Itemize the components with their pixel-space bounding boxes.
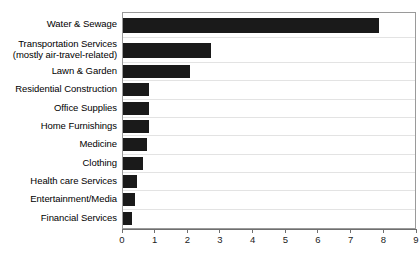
bar (123, 157, 143, 170)
x-axis-tick (383, 229, 384, 233)
bar (123, 212, 132, 225)
category-label-text: Home Furnishings (41, 121, 117, 132)
plot-area (122, 12, 416, 229)
x-axis-tick-label: 8 (381, 234, 386, 245)
bar (123, 65, 190, 78)
category-label: Financial Services (0, 209, 122, 227)
bar-row (123, 38, 415, 63)
category-label-text-secondary: (mostly air-travel-related) (13, 50, 117, 61)
category-label: Health care Services (0, 172, 122, 190)
x-axis-tick (252, 229, 253, 233)
x-axis-tick (122, 229, 123, 233)
category-label: Lawn & Garden (0, 62, 122, 80)
x-axis-line (122, 229, 416, 230)
category-label-text: Transportation Services(mostly air-trave… (13, 39, 117, 60)
x-axis-tick-label: 5 (283, 234, 288, 245)
category-label-text: Office Supplies (54, 103, 117, 114)
bar-row (123, 191, 415, 209)
bar (123, 18, 379, 33)
x-axis-tick-label: 7 (348, 234, 353, 245)
bar-row (123, 81, 415, 99)
x-axis-tick (350, 229, 351, 233)
category-label-text: Water & Sewage (47, 19, 117, 30)
bar (123, 193, 135, 206)
category-label-text: Clothing (83, 158, 117, 169)
x-axis-tick-label: 6 (315, 234, 320, 245)
bar-row (123, 173, 415, 191)
category-label-text: Residential Construction (15, 84, 117, 95)
category-label-text: Health care Services (30, 176, 117, 187)
category-label-column: Water & SewageTransportation Services(mo… (0, 12, 122, 229)
x-axis: 0123456789 (122, 229, 416, 256)
x-axis-tick-label: 0 (119, 234, 124, 245)
x-axis-tick-label: 1 (152, 234, 157, 245)
plot-wrapper: Water & SewageTransportation Services(mo… (0, 12, 416, 229)
category-label-text: Lawn & Garden (52, 66, 117, 77)
bar (123, 83, 149, 96)
x-axis-tick (285, 229, 286, 233)
bar-row (123, 63, 415, 81)
category-label: Entertainment/Media (0, 190, 122, 208)
x-axis-tick-label: 9 (413, 234, 418, 245)
bar (123, 43, 211, 58)
category-label-text: Financial Services (41, 213, 117, 224)
x-axis-tick (317, 229, 318, 233)
bar-row (123, 155, 415, 173)
category-label: Residential Construction (0, 80, 122, 98)
x-axis-tick (187, 229, 188, 233)
category-label: Clothing (0, 154, 122, 172)
bar (123, 138, 147, 151)
bar-row (123, 13, 415, 38)
x-axis-tick (154, 229, 155, 233)
x-axis-tick-label: 3 (217, 234, 222, 245)
x-axis-tick-label: 2 (185, 234, 190, 245)
bar-row (123, 118, 415, 136)
bar (123, 102, 149, 115)
category-label: Home Furnishings (0, 117, 122, 135)
bar-row (123, 100, 415, 118)
x-axis-tick (416, 229, 417, 233)
category-label: Transportation Services(mostly air-trave… (0, 37, 122, 62)
category-label-text: Entertainment/Media (30, 194, 117, 205)
chart-title (0, 0, 416, 4)
category-label: Medicine (0, 135, 122, 153)
category-label: Office Supplies (0, 99, 122, 117)
bar-row (123, 210, 415, 228)
x-axis-tick (219, 229, 220, 233)
bar (123, 175, 137, 188)
bar (123, 120, 149, 133)
bar-row (123, 136, 415, 154)
x-axis-tick-label: 4 (250, 234, 255, 245)
category-label-text: Medicine (79, 139, 117, 150)
category-label: Water & Sewage (0, 12, 122, 37)
